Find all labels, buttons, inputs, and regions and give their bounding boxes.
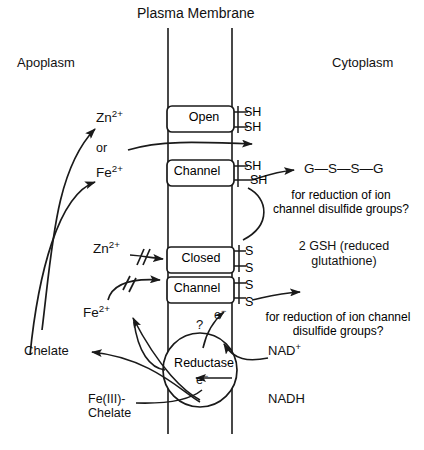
zinc-ion-apoplasm: Zn2+ [96, 110, 123, 125]
electron-label-inner: e− [196, 373, 208, 387]
open-channel-label-line1: Open [175, 110, 233, 124]
annotation-upper: for reduction of ion channel disulfide g… [262, 188, 420, 216]
open-channel-label-line2: Channel [168, 164, 226, 178]
reduced-glutathione-label: 2 GSH (reduced glutathione) [279, 239, 409, 269]
annotation-upper-line1: for reduction of ion [262, 188, 420, 202]
nad-plus-charge: + [295, 342, 300, 352]
open-thiol-label-1: SH [244, 105, 261, 119]
page-title: Plasma Membrane [137, 6, 255, 22]
reductase-circle [163, 333, 237, 407]
electron-upper-symbol: e [214, 308, 221, 322]
disulfide-reduction-arrow [252, 292, 300, 300]
electron-upper-charge: − [221, 306, 226, 316]
fe3-chelate-line1: Fe(III)- [88, 392, 131, 406]
annotation-lower-line2: disulfide groups? [256, 324, 420, 338]
gsh-recycle-curve [243, 188, 264, 240]
reduced-glutathione-line2: glutathione) [279, 254, 409, 269]
open-thiol-label-3: SH [244, 159, 261, 173]
question-mark-label: ? [196, 318, 203, 333]
reduced-glutathione-line1: 2 GSH (reduced [279, 239, 409, 254]
iron-released-symbol: Fe [83, 305, 99, 320]
oxidized-glutathione-label: G—S—S—G [304, 161, 384, 176]
open-channel-transport-arrow [128, 142, 252, 150]
or-connector-label: or [96, 141, 107, 155]
fe3-chelate-label: Fe(III)- Chelate [88, 392, 131, 421]
nad-plus-symbol: NAD [268, 343, 295, 358]
electron-inner-symbol: e [196, 373, 203, 387]
closed-sulfur-label-2: S [245, 261, 253, 275]
open-thiol-label-4: SH [250, 173, 267, 187]
ion-influx-arrows [30, 129, 95, 355]
chelate-label: Chelate [24, 344, 69, 359]
annotation-upper-line2: channel disulfide groups? [262, 202, 420, 216]
apoplasm-label: Apoplasm [17, 56, 75, 71]
zinc-blocked-charge: 2+ [109, 239, 120, 250]
zinc-blocked-symbol: Zn [93, 241, 109, 256]
iron-ion-apoplasm: Fe2+ [96, 165, 123, 180]
zinc-blocked-arrow [130, 249, 163, 265]
electron-label-upper: e− [214, 308, 226, 322]
closed-channel-label-line2: Channel [168, 281, 226, 295]
iron-ion-released: Fe2+ [83, 305, 110, 320]
iron-blocked-arrow [108, 276, 160, 300]
iron-charge: 2+ [112, 163, 123, 174]
membrane-transport-diagram: Plasma Membrane Apoplasm Cytoplasm Zn2+ … [0, 0, 424, 450]
closed-channel-label-line1: Closed [172, 251, 230, 265]
reductase-label: Reductase [168, 356, 240, 370]
electron-inner-charge: − [203, 371, 208, 381]
nadh-label: NADH [268, 392, 305, 407]
cytoplasm-label: Cytoplasm [332, 56, 393, 71]
open-thiol-label-2: SH [244, 120, 261, 134]
closed-sulfur-label-3: S [245, 278, 253, 292]
zinc-symbol: Zn [96, 110, 112, 125]
annotation-lower: for reduction of ion channel disulfide g… [256, 310, 420, 338]
closed-sulfur-label-4: S [245, 295, 253, 309]
closed-sulfur-label-1: S [245, 244, 253, 258]
iron-symbol: Fe [96, 165, 112, 180]
annotation-lower-line1: for reduction of ion channel [256, 310, 420, 324]
zinc-charge: 2+ [112, 108, 123, 119]
nad-plus-label: NAD+ [268, 344, 301, 359]
fe3-chelate-line2: Chelate [88, 406, 131, 420]
iron-released-charge: 2+ [99, 303, 110, 314]
zinc-ion-blocked: Zn2+ [93, 241, 120, 256]
